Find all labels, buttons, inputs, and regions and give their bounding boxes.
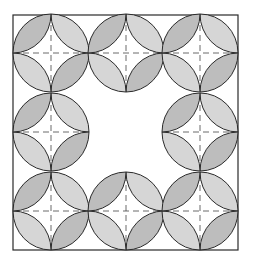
petal [200, 172, 238, 211]
petal [88, 211, 126, 250]
petal [13, 132, 51, 171]
petal [88, 14, 126, 53]
petal [200, 93, 238, 132]
petal [126, 211, 164, 250]
petal [13, 53, 51, 92]
petal [200, 211, 238, 250]
petal [13, 93, 51, 132]
petal [13, 211, 51, 250]
petal [200, 14, 238, 53]
petal [88, 172, 126, 211]
petal [51, 53, 89, 92]
petal [162, 14, 200, 53]
petal [126, 53, 164, 92]
petal [51, 14, 89, 53]
petal [51, 132, 89, 171]
petal [13, 14, 51, 53]
petal [51, 93, 89, 132]
petal [88, 53, 126, 92]
quilt-sketch [0, 0, 253, 263]
petal [200, 132, 238, 171]
petal [13, 172, 51, 211]
petal [126, 14, 164, 53]
petal [200, 53, 238, 92]
petal [162, 93, 200, 132]
petal [162, 132, 200, 171]
petal [162, 211, 200, 250]
petal [51, 172, 89, 211]
petal [51, 211, 89, 250]
dashed-guides [13, 15, 238, 250]
petal [162, 172, 200, 211]
petal [162, 53, 200, 92]
petal [126, 172, 164, 211]
